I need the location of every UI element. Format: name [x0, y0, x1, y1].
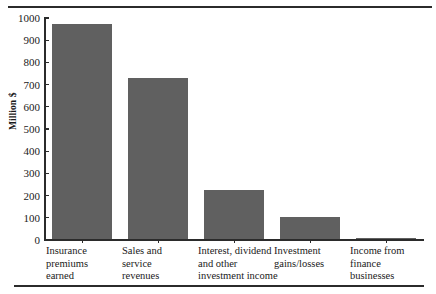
- bar: [204, 190, 265, 239]
- x-axis-category-label-line: premiums: [46, 258, 88, 271]
- x-axis-category-label-line: service: [122, 258, 162, 271]
- y-axis-tick-label: 0: [35, 234, 41, 245]
- y-axis-tick: 500: [44, 128, 49, 129]
- x-axis-tick: [158, 239, 159, 243]
- x-axis-category-label-line: businesses: [350, 270, 405, 283]
- x-axis-category-label-line: and other: [198, 258, 278, 271]
- x-axis-category-label: Income fromfinancebusinesses: [350, 245, 405, 283]
- y-axis-title: Million $: [8, 0, 18, 222]
- x-axis-category-label-line: gains/losses: [274, 258, 324, 271]
- y-axis-tick-label: 500: [24, 123, 41, 134]
- x-axis-category-label: Sales andservicerevenues: [122, 245, 162, 283]
- x-axis-tick: [82, 239, 83, 243]
- x-axis-category-label-line: Investment: [274, 245, 324, 258]
- y-axis-tick: 600: [44, 106, 49, 107]
- y-axis-tick-label: 1000: [18, 13, 40, 24]
- y-axis-tick-label: 400: [24, 146, 41, 157]
- x-axis-category-label-line: Sales and: [122, 245, 162, 258]
- y-axis-tick: 800: [44, 62, 49, 63]
- y-axis-tick: 700: [44, 84, 49, 85]
- y-axis-tick: 400: [44, 151, 49, 152]
- y-axis-tick-label: 300: [24, 168, 41, 179]
- x-axis-category-label-line: revenues: [122, 270, 162, 283]
- x-axis-category-label: Investmentgains/losses: [274, 245, 324, 270]
- figure-top-rule: [8, 6, 432, 8]
- x-axis-tick: [234, 239, 235, 243]
- x-axis-category-label: Interest, dividendand otherinvestment in…: [198, 245, 278, 283]
- x-axis-category-label-line: Insurance: [46, 245, 88, 258]
- x-axis-category-labels: InsurancepremiumsearnedSales andservicer…: [44, 245, 436, 285]
- x-axis-tick: [310, 239, 311, 243]
- y-axis-tick-label: 800: [24, 57, 41, 68]
- bar-chart-plot-area: 10009008007006005004003002001000: [44, 18, 424, 240]
- y-axis-tick: 300: [44, 173, 49, 174]
- x-axis-category-label-line: investment income: [198, 270, 278, 283]
- y-axis-tick: 0: [44, 239, 49, 240]
- x-axis-category-label-line: earned: [46, 270, 88, 283]
- y-axis-tick: 200: [44, 195, 49, 196]
- y-axis-tick-label: 700: [24, 79, 41, 90]
- y-axis-tick-label: 900: [24, 35, 41, 46]
- x-axis-category-label-line: Income from: [350, 245, 405, 258]
- y-axis-tick-label: 200: [24, 190, 41, 201]
- x-axis-category-label-line: finance: [350, 258, 405, 271]
- figure-bottom-rule: [14, 285, 424, 287]
- x-axis-tick: [386, 239, 387, 243]
- bar: [52, 24, 113, 239]
- y-axis-tick: 100: [44, 217, 49, 218]
- bar: [280, 217, 341, 239]
- bar: [128, 78, 189, 239]
- y-axis-tick: 900: [44, 40, 49, 41]
- y-axis-tick-label: 600: [24, 101, 41, 112]
- x-axis-category-label: Insurancepremiumsearned: [46, 245, 88, 283]
- y-axis-tick-label: 100: [24, 212, 41, 223]
- y-axis-tick: 1000: [44, 17, 49, 18]
- x-axis-category-label-line: Interest, dividend: [198, 245, 278, 258]
